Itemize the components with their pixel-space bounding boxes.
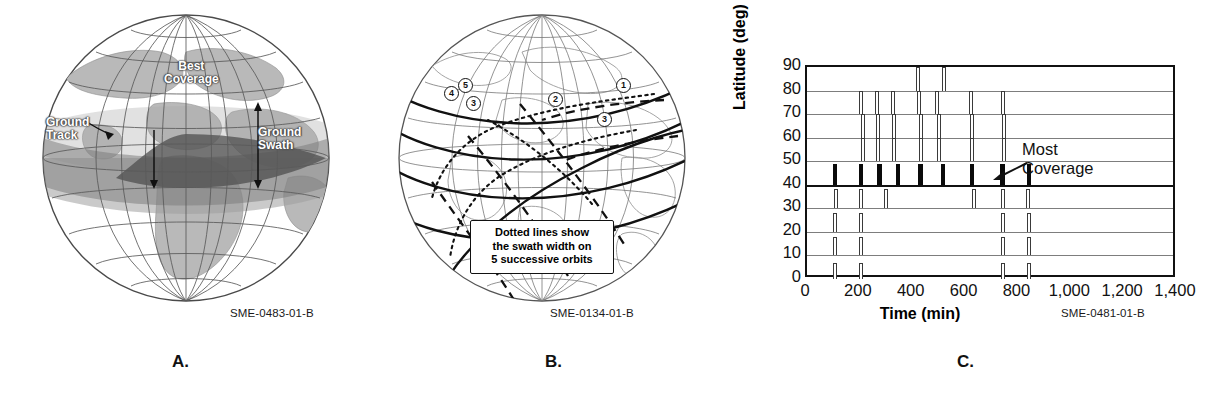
chart-x-tick-0: 0 <box>800 281 809 300</box>
chart-gridline-30 <box>807 208 1173 209</box>
chart-pulse <box>1001 213 1005 232</box>
panel-b-source-code: SME-0134-01-B <box>550 307 634 319</box>
chart-x-tick-400: 400 <box>897 281 925 300</box>
panel-a-source-code: SME-0483-01-B <box>230 307 314 319</box>
chart-pulse <box>859 263 863 279</box>
most-coverage-line2: Coverage <box>1022 159 1094 177</box>
chart-pulse <box>1002 114 1006 138</box>
chart-pulse <box>877 164 882 185</box>
chart-y-tick-90: 90 <box>739 56 801 72</box>
chart-pulse <box>970 114 974 138</box>
chart-pulse <box>935 91 939 115</box>
chart-pulse <box>861 114 865 138</box>
swath-callout-line1: Dotted lines show <box>495 226 589 238</box>
label-ground-track: Ground Track <box>46 116 89 142</box>
chart-x-axis-label: Time (min) <box>880 305 961 323</box>
figure-root: Best Coverage Ground Track Ground Swath … <box>0 0 1219 397</box>
chart-pulse <box>896 164 901 185</box>
chart-pulse <box>1001 237 1005 256</box>
chart-pulse <box>833 164 838 185</box>
chart-pulse <box>892 138 896 162</box>
chart-gridline-20 <box>807 232 1173 233</box>
chart-pulse <box>937 114 941 138</box>
panel-c-letter: C. <box>957 352 974 372</box>
orbit-number-4: 4 <box>444 86 459 101</box>
swath-callout-line3: 5 successive orbits <box>491 253 593 265</box>
chart-pulse <box>859 213 863 232</box>
chart-y-tick-30: 30 <box>739 197 801 213</box>
chart-gridline-10 <box>807 255 1173 256</box>
chart-pulse <box>859 164 864 185</box>
chart-y-tick-50: 50 <box>739 150 801 166</box>
chart-pulse <box>916 67 920 91</box>
chart-x-tick-1400: 1,400 <box>1154 281 1195 300</box>
best-coverage-line1: Best <box>178 59 204 73</box>
chart-y-tick-0: 0 <box>739 268 801 284</box>
chart-pulse <box>861 138 865 162</box>
label-ground-swath: Ground Swath <box>258 126 301 152</box>
chart-y-tick-10: 10 <box>739 244 801 260</box>
panel-b: 1 2 3 5 4 3 Dotted lines show the swath … <box>370 0 735 397</box>
chart-x-tick-800: 800 <box>1003 281 1031 300</box>
ground-swath-line1: Ground <box>258 125 301 139</box>
chart-y-tick-40: 40 <box>739 174 801 190</box>
ground-swath-line2: Swath <box>258 138 293 152</box>
orbit-number-2: 2 <box>548 92 563 107</box>
chart-pulse <box>859 189 863 208</box>
globe-a-svg <box>36 8 336 308</box>
chart-pulse <box>833 263 837 279</box>
chart-pulse <box>892 114 896 138</box>
chart-pulse <box>859 237 863 256</box>
most-coverage-line1: Most <box>1022 140 1058 158</box>
orbit-number-5: 5 <box>458 78 473 93</box>
panel-c-source-code: SME-0481-01-B <box>1061 307 1145 319</box>
chart-pulse <box>891 91 895 115</box>
chart-x-tick-1000: 1,000 <box>1049 281 1090 300</box>
globe-b-graphic: 1 2 3 5 4 3 Dotted lines show the swath … <box>392 8 692 308</box>
chart-pulse <box>876 114 880 138</box>
chart-pulse <box>919 114 923 138</box>
chart-x-tick-600: 600 <box>950 281 978 300</box>
chart-pulse <box>833 213 837 232</box>
chart-pulse <box>833 237 837 256</box>
best-coverage-line2: Coverage <box>164 72 219 86</box>
chart-pulse <box>859 91 863 115</box>
swath-callout-box: Dotted lines show the swath width on 5 s… <box>470 220 614 274</box>
chart-pulse <box>918 164 923 185</box>
most-coverage-arrow-icon <box>987 160 1029 184</box>
chart-pulse <box>1026 189 1030 208</box>
panel-c: Latitude (deg) 0102030405060708090 02004… <box>735 0 1219 397</box>
most-coverage-annotation: Most Coverage <box>1022 140 1094 178</box>
chart-pulse <box>834 189 838 208</box>
globe-a-graphic: Best Coverage Ground Track Ground Swath <box>36 8 336 308</box>
ground-track-line2: Track <box>46 128 77 142</box>
chart-y-tick-60: 60 <box>739 127 801 143</box>
chart-pulse <box>919 138 923 162</box>
chart-x-tick-200: 200 <box>844 281 872 300</box>
chart-y-tick-70: 70 <box>739 103 801 119</box>
panel-a-letter: A. <box>172 352 189 372</box>
chart-y-tick-80: 80 <box>739 80 801 96</box>
chart-pulse <box>917 91 921 115</box>
chart-pulse <box>969 91 973 115</box>
label-best-coverage: Best Coverage <box>164 60 219 86</box>
chart-pulse <box>1001 263 1005 279</box>
chart-gridline-40 <box>807 185 1173 187</box>
chart-pulse <box>875 91 879 115</box>
chart-pulse <box>972 189 976 208</box>
orbit-number-3-right: 3 <box>597 112 612 127</box>
chart-pulse <box>1027 237 1031 256</box>
chart-pulse <box>970 138 974 162</box>
chart-pulse <box>1001 91 1005 115</box>
chart-pulse <box>942 67 946 91</box>
chart-pulse <box>1002 138 1006 162</box>
chart-pulse <box>937 138 941 162</box>
chart-pulse <box>941 164 946 185</box>
orbit-number-1: 1 <box>616 78 631 93</box>
swath-callout-line2: the swath width on <box>493 240 592 252</box>
chart-pulse <box>1001 189 1005 208</box>
panel-a: Best Coverage Ground Track Ground Swath … <box>0 0 370 397</box>
chart-pulse <box>884 189 888 208</box>
chart-pulse <box>1027 213 1031 232</box>
chart-pulse <box>876 138 880 162</box>
